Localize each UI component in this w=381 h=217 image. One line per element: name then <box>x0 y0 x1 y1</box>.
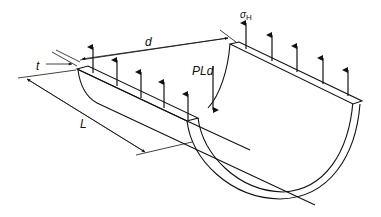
half-cylinder-diagram: d t L PLd σH <box>0 0 381 217</box>
thickness-label: t <box>36 59 40 73</box>
thickness-dimension <box>46 52 77 66</box>
force-label: PLd <box>192 64 214 78</box>
stress-label: σH <box>240 9 252 22</box>
diameter-label: d <box>145 35 152 49</box>
stress-subscript: H <box>246 13 252 22</box>
length-label: L <box>80 117 87 131</box>
shell-body <box>77 42 362 205</box>
